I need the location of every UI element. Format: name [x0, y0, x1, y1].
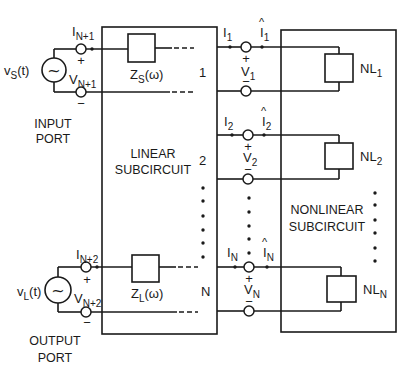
output-port-label-line2: PORT — [38, 351, 73, 365]
nonlinear-label-line2: SUBCIRCUIT — [289, 220, 366, 234]
output-minus-sign: − — [83, 315, 91, 330]
port-2-current-label: I2 — [224, 114, 234, 132]
port-1-hat-current-label: I1 — [260, 25, 270, 43]
linear-port-number-n: N — [201, 284, 210, 299]
nonlinear-element-2-label: NL2 — [360, 149, 383, 167]
input-voltage-label: VN+1 — [69, 72, 97, 90]
port-1: NL1 I1 ^ I1 + V1 − — [217, 16, 383, 96]
nonlinear-element-n — [327, 276, 356, 302]
input-port-label-line2: PORT — [36, 132, 71, 146]
output-plus-sign: + — [83, 272, 91, 287]
nonlinear-label-line1: NONLINEAR — [291, 203, 364, 217]
nonlinear-element-1-label: NL1 — [360, 61, 383, 79]
nonlinear-element-1 — [325, 54, 353, 82]
input-minus-sign: − — [77, 96, 85, 111]
output-current-label: IN+2 — [76, 247, 99, 265]
input-current-label: IN+1 — [72, 24, 95, 42]
output-voltage-label: VN+2 — [74, 291, 102, 309]
circuit-diagram: LINEAR SUBCIRCUIT 1 2 N NONLINEAR SUBCIR… — [0, 0, 413, 378]
linear-ellipsis-dots — [201, 186, 204, 258]
port-ellipsis-dots — [247, 196, 250, 254]
nonlinear-element-2 — [325, 143, 353, 169]
port-2-minus-sign: − — [244, 162, 252, 177]
port-2-hat-current-label: I2 — [262, 114, 272, 132]
input-port-label-line1: INPUT — [34, 117, 72, 131]
input-plus-sign: + — [77, 53, 85, 68]
port-2: NL2 I2 ^ I2 + V2 − — [217, 105, 383, 184]
output-port: ~ vL(t) IN+2 + VN+2 − ZL(ω) OUTPUT PORT — [17, 247, 198, 365]
port-n: NLN IN ^ IN + VN − — [217, 236, 387, 316]
ac-source-tilde-icon: ~ — [47, 61, 60, 80]
linear-label-line1: LINEAR — [130, 147, 175, 161]
port-1-minus-sign: − — [242, 74, 250, 89]
port-1-current-label: I1 — [223, 25, 233, 43]
source-impedance-label: ZS(ω) — [130, 67, 163, 85]
linear-port-number-2: 2 — [199, 153, 206, 168]
nonlinear-ellipsis-dots — [373, 191, 376, 262]
source-impedance-box — [128, 34, 155, 62]
input-source-label: vS(t) — [4, 63, 29, 81]
ac-source-tilde-icon: ~ — [51, 281, 64, 300]
port-n-current-label: IN — [227, 245, 238, 263]
nonlinear-element-n-label: NLN — [363, 282, 387, 300]
output-port-label-line1: OUTPUT — [29, 334, 81, 348]
load-impedance-label: ZL(ω) — [131, 286, 163, 304]
input-port: ~ vS(t) IN+1 + VN+1 − ZS(ω) INPUT PORT — [4, 24, 194, 146]
output-source-label: vL(t) — [17, 284, 41, 302]
port-n-hat-current-label: IN — [263, 245, 274, 263]
linear-label-line2: SUBCIRCUIT — [115, 163, 192, 177]
load-impedance-box — [132, 255, 159, 282]
port-n-minus-sign: − — [245, 294, 253, 309]
linear-port-number-1: 1 — [199, 65, 206, 80]
